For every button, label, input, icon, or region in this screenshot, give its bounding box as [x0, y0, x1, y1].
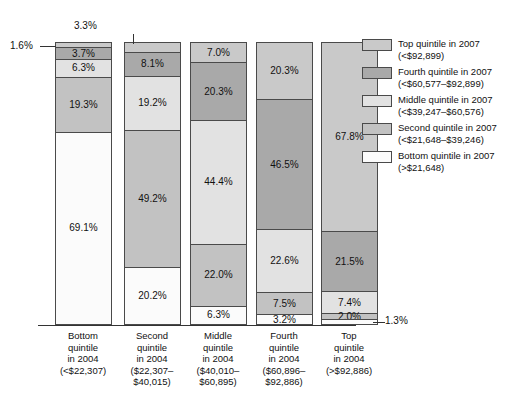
bar-segment-fourth-2004-0[interactable]: 20.3%: [256, 42, 313, 99]
legend-swatch-icon: [362, 67, 392, 79]
legend-label-line2: (>$21,648): [398, 162, 495, 174]
bar-segment-bottom-2004-3[interactable]: 19.3%: [55, 77, 112, 131]
bar-segment-value-label: 49.2%: [138, 194, 166, 204]
bar-column-second-2004[interactable]: 3.3%8.1%19.2%49.2%20.2%: [124, 42, 181, 325]
bar-segment-fourth-2004-3[interactable]: 7.5%: [256, 292, 313, 314]
legend: Top quintile in 2007(<$92,899)Fourth qui…: [362, 38, 516, 178]
bar-segment-middle-2004-1[interactable]: 20.3%: [190, 62, 247, 119]
legend-label-line1: Second quintile in 2007: [398, 122, 497, 133]
legend-label-line2: (<$39,247–$60,576): [398, 106, 493, 118]
bar-segment-value-label: 22.6%: [270, 256, 298, 266]
bar-segment-middle-2004-0[interactable]: 7.0%: [190, 42, 247, 62]
bar-segment-middle-2004-3[interactable]: 22.0%: [190, 244, 247, 306]
legend-label-line2: (<$92,899): [398, 50, 480, 62]
legend-swatch-icon: [362, 39, 392, 51]
bar-segment-value-label: 19.3%: [69, 100, 97, 110]
bar-segment-middle-2004-2[interactable]: 44.4%: [190, 120, 247, 244]
bar-segment-value-label: 46.5%: [270, 160, 298, 170]
legend-item-0[interactable]: Top quintile in 2007(<$92,899): [362, 38, 516, 61]
bar-segment-value-label: 20.3%: [270, 66, 298, 76]
callout-1-6-leader-line: [40, 46, 56, 47]
legend-label-line1: Top quintile in 2007: [398, 38, 480, 49]
x-axis-label-line: quintile: [306, 342, 392, 354]
bar-column-middle-2004[interactable]: 7.0%20.3%44.4%22.0%6.3%: [190, 42, 247, 325]
bar-segment-second-2004-3[interactable]: 49.2%: [124, 130, 181, 267]
x-axis-baseline: [38, 325, 356, 326]
callout-1-3-leader-line: [373, 322, 385, 323]
legend-item-4[interactable]: Bottom quintile in 2007(>$21,648): [362, 150, 516, 173]
callout-1-3-label: 1.3%: [385, 315, 408, 326]
bar-segment-second-2004-4[interactable]: 20.2%: [124, 267, 181, 325]
x-axis-label-line: (>$92,886): [306, 365, 392, 377]
legend-label: Top quintile in 2007(<$92,899): [398, 38, 480, 61]
legend-swatch-icon: [362, 95, 392, 107]
bar-segment-fourth-2004-1[interactable]: 46.5%: [256, 99, 313, 229]
bar-segment-value-label: 7.0%: [207, 48, 230, 58]
legend-item-1[interactable]: Fourth quintile in 2007(<$60,577–$92,899…: [362, 66, 516, 89]
bar-segment-value-label: 3.7%: [72, 49, 95, 59]
legend-label-line2: (<$60,577–$92,899): [398, 78, 492, 90]
bar-segment-fourth-2004-2[interactable]: 22.6%: [256, 229, 313, 293]
bar-segment-bottom-2004-1[interactable]: 3.7%: [55, 47, 112, 58]
x-axis-label-4: Topquintilein 2004(>$92,886): [306, 330, 392, 376]
legend-swatch-icon: [362, 123, 392, 135]
bar-segment-middle-2004-4[interactable]: 6.3%: [190, 306, 247, 325]
legend-item-2[interactable]: Middle quintile in 2007(<$39,247–$60,576…: [362, 94, 516, 117]
bar-segment-top-2004-1[interactable]: 21.5%: [321, 231, 378, 292]
legend-label: Second quintile in 2007(<$21,648–$39,246…: [398, 122, 497, 145]
legend-label-line1: Bottom quintile in 2007: [398, 150, 495, 161]
bar-column-fourth-2004[interactable]: 20.3%46.5%22.6%7.5%3.2%: [256, 42, 313, 325]
callout-3-3-label: 3.3%: [74, 20, 97, 31]
legend-swatch-icon: [362, 151, 392, 163]
bar-segment-top-2004-2[interactable]: 7.4%: [321, 291, 378, 313]
x-axis-label-line: Top: [306, 330, 392, 342]
bar-segment-value-label: 20.2%: [138, 291, 166, 301]
bar-segment-second-2004-2[interactable]: 19.2%: [124, 76, 181, 130]
bar-segment-value-label: 22.0%: [204, 270, 232, 280]
bar-segment-bottom-2004-2[interactable]: 6.3%: [55, 59, 112, 77]
bar-segment-second-2004-1[interactable]: 8.1%: [124, 52, 181, 75]
bar-segment-value-label: 8.1%: [141, 59, 164, 69]
bar-segment-value-label: 7.4%: [338, 298, 361, 308]
x-axis-label-line: in 2004: [306, 353, 392, 365]
legend-label-line1: Fourth quintile in 2007: [398, 66, 492, 77]
bar-segment-value-label: 3.2%: [273, 315, 296, 325]
stacked-bar-chart: 1.6%3.7%6.3%19.3%69.1%3.3%8.1%19.2%49.2%…: [0, 0, 516, 406]
bar-segment-value-label: 69.1%: [69, 223, 97, 233]
bar-segment-value-label: 20.3%: [204, 87, 232, 97]
callout-3-3-leader-line: [133, 34, 134, 44]
bar-segment-value-label: 67.8%: [335, 132, 363, 142]
bar-segment-bottom-2004-4[interactable]: 69.1%: [55, 132, 112, 325]
bar-column-bottom-2004[interactable]: 1.6%3.7%6.3%19.3%69.1%: [55, 42, 112, 325]
callout-1-6-label: 1.6%: [10, 40, 33, 51]
legend-label-line1: Middle quintile in 2007: [398, 94, 493, 105]
bar-segment-value-label: 6.3%: [207, 310, 230, 320]
bar-segment-fourth-2004-4[interactable]: 3.2%: [256, 314, 313, 325]
bar-segment-value-label: 6.3%: [72, 63, 95, 73]
bar-segment-value-label: 7.5%: [273, 299, 296, 309]
legend-item-3[interactable]: Second quintile in 2007(<$21,648–$39,246…: [362, 122, 516, 145]
legend-label: Fourth quintile in 2007(<$60,577–$92,899…: [398, 66, 492, 89]
legend-label-line2: (<$21,648–$39,246): [398, 134, 497, 146]
legend-label: Bottom quintile in 2007(>$21,648): [398, 150, 495, 173]
legend-label: Middle quintile in 2007(<$39,247–$60,576…: [398, 94, 493, 117]
x-axis-label-line: $92,886): [241, 376, 327, 388]
bar-segment-value-label: 19.2%: [138, 98, 166, 108]
bar-segment-value-label: 21.5%: [335, 257, 363, 267]
bar-segment-value-label: 44.4%: [204, 177, 232, 187]
